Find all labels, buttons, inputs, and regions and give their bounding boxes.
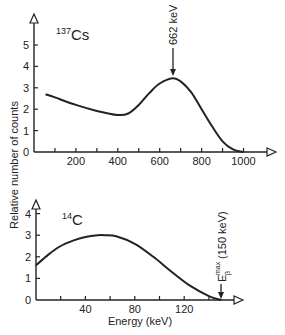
cs137-spectrum-curve [46,78,244,152]
cs137-panel: 2004006008001000012345 137Cs 662 keV [23,4,276,167]
x-tick-label: 120 [175,303,193,315]
y-tick-label: 4 [23,60,29,72]
svg-text:max: max [214,261,221,275]
y-axis-arrowhead [32,200,40,209]
x-axis-arrowhead [267,148,276,156]
y-tick-label: 0 [23,146,29,158]
x-tick-label: 40 [79,303,91,315]
x-tick-label: 400 [109,155,127,167]
x-tick-label: 800 [192,155,210,167]
x-axis-title: Energy (keV) [108,315,172,327]
y-tick-label: 2 [25,251,31,263]
svg-text:(150 keV): (150 keV) [216,211,228,259]
c14-panel: 408012001234 14C E max β (150 keV) [25,200,243,315]
svg-text:β: β [224,271,232,275]
cs137-axes: 2004006008001000012345 [23,14,276,167]
c14-spectrum-curve [36,235,221,300]
y-tick-label: 1 [25,272,31,284]
x-tick-label: 200 [67,155,85,167]
c14-emax-arrow [218,284,224,299]
c14-title: 14C [62,211,83,228]
y-tick-label: 0 [25,294,31,306]
cs137-peak-label: 662 keV [167,4,179,45]
y-axis-arrowhead [30,14,38,23]
cs137-peak-arrow [170,48,176,76]
y-tick-label: 2 [23,103,29,115]
y-tick-label: 4 [25,208,31,220]
beta-gamma-spectra-figure: 2004006008001000012345 137Cs 662 keV 408… [0,0,285,335]
cs137-title: 137Cs [56,26,89,43]
y-tick-label: 3 [23,82,29,94]
y-axis-title: Relative number of counts [8,101,20,229]
y-tick-label: 1 [23,125,29,137]
x-tick-label: 80 [129,303,141,315]
c14-emax-label: E max β (150 keV) [214,211,232,282]
x-axis-arrowhead [234,296,243,304]
x-tick-label: 600 [151,155,169,167]
y-tick-label: 3 [25,229,31,241]
y-tick-label: 5 [23,39,29,51]
x-tick-label: 1000 [231,155,255,167]
